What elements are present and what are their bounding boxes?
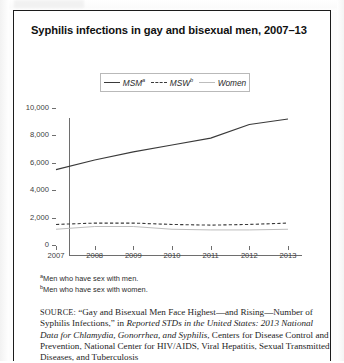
- source-label: SOURCE:: [40, 308, 76, 317]
- footnote-a: aMen who have sex with men.: [40, 273, 138, 283]
- footnote-b: bMen who have sex with women.: [40, 284, 148, 294]
- source-note: SOURCE: “Gay and Bisexual Men Face Highe…: [40, 307, 332, 363]
- figure-box: Syphilis infections in gay and bisexual …: [13, 10, 331, 361]
- series-line-msm: [56, 119, 288, 170]
- page-header-ghost: [14, 0, 84, 8]
- series-line-women: [56, 227, 288, 230]
- series-line-msw: [56, 223, 288, 225]
- page-edge-right: [337, 0, 344, 361]
- page-edge-left: [0, 0, 9, 361]
